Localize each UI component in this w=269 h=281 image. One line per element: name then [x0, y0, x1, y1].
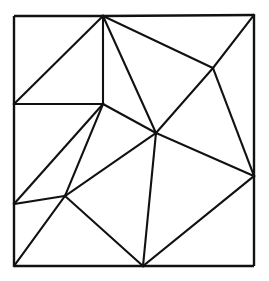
- figure-background: [0, 0, 269, 281]
- triangulated-mesh-figure: [0, 0, 269, 281]
- edge-top-right-segment: [103, 15, 254, 16]
